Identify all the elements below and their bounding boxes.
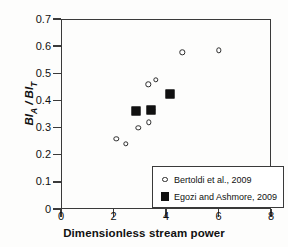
x-axis-tick-label: 2 xyxy=(102,211,126,222)
data-point-filled-square xyxy=(147,105,156,114)
scatter-plot-figure: 00.10.20.30.40.50.60.7 02468 BIA / BIT D… xyxy=(0,0,288,247)
y-axis-tick xyxy=(53,154,61,155)
y-axis-tick-label: 0.1 xyxy=(36,176,51,187)
x-axis-tick-label: 6 xyxy=(207,211,231,222)
data-point-filled-square xyxy=(166,89,175,98)
y-axis-tick xyxy=(53,73,61,74)
y-axis-tick xyxy=(53,127,61,128)
data-point-filled-square xyxy=(132,107,141,116)
y-axis-tick xyxy=(53,45,61,46)
legend-item-egozi: Egozi and Ashmore, 2009 xyxy=(158,188,279,205)
y-axis-tick-label: 0.7 xyxy=(36,14,51,25)
legend-item-bertoldi: Bertoldi et al., 2009 xyxy=(158,171,279,188)
y-axis-tick-label: 0.6 xyxy=(36,41,51,52)
x-axis-tick-label: 4 xyxy=(154,211,178,222)
y-axis-label: BIA / BIT xyxy=(23,77,38,131)
x-axis-tick-label: 8 xyxy=(259,211,283,222)
y-axis-tick xyxy=(53,100,61,101)
legend: Bertoldi et al., 2009 Egozi and Ashmore,… xyxy=(152,166,284,208)
y-axis-tick xyxy=(53,18,61,19)
open-circle-marker-icon xyxy=(158,177,172,182)
y-axis-tick-label: 0.2 xyxy=(36,149,51,160)
filled-square-marker-icon xyxy=(158,192,172,201)
y-axis-tick xyxy=(53,181,61,182)
x-axis-label: Dimensionless stream power xyxy=(0,227,288,239)
x-axis-tick-label: 0 xyxy=(49,211,73,222)
legend-label: Egozi and Ashmore, 2009 xyxy=(172,192,277,202)
legend-label: Bertoldi et al., 2009 xyxy=(172,175,252,185)
